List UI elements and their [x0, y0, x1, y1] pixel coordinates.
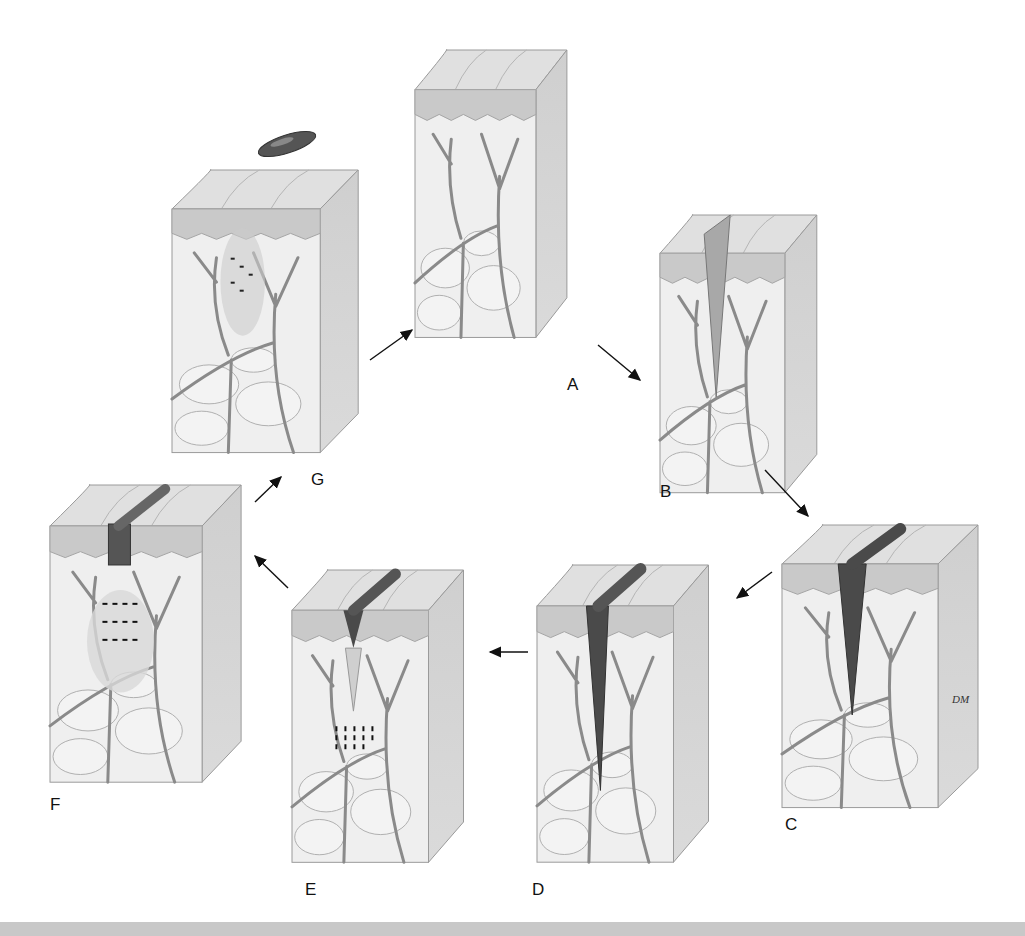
skin-block-b: [660, 215, 817, 493]
panel-label-a: A: [567, 375, 578, 395]
diagram-canvas: [0, 0, 1025, 922]
skin-block-e: [292, 570, 464, 863]
skin-block-g: [172, 170, 358, 453]
skin-block-c: [782, 525, 978, 808]
arrow-e-to-f: [255, 556, 288, 588]
panel-label-d: D: [532, 880, 544, 900]
arrow-g-to-a: [370, 330, 412, 360]
panel-label-b: B: [660, 482, 671, 502]
panel-label-g: G: [311, 470, 324, 490]
arrow-c-to-d: [737, 572, 772, 598]
arrow-a-to-b: [598, 345, 640, 380]
panel-label-f: F: [50, 795, 60, 815]
wound-healing-diagram: ABCDEFG DM: [0, 0, 1025, 922]
bottom-band: [0, 922, 1025, 936]
skin-block-f: [50, 485, 241, 783]
arrow-f-to-g: [255, 477, 281, 502]
shed-scab: [256, 126, 319, 162]
skin-block-d: [537, 565, 709, 863]
panel-label-e: E: [305, 880, 316, 900]
skin-block-a: [415, 50, 567, 338]
artist-signature: DM: [952, 693, 969, 705]
panel-label-c: C: [785, 815, 797, 835]
